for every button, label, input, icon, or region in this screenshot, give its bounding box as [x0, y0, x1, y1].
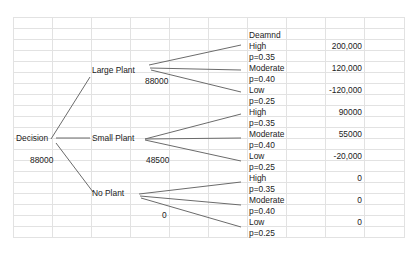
- outcome-payoff: -20,000: [320, 151, 362, 162]
- outcome-prob: p=0.35: [249, 118, 275, 129]
- outcome-line: [141, 198, 241, 227]
- branch-ev-no-plant: 0: [162, 210, 167, 221]
- branch-label-small-plant: Small Plant: [92, 133, 134, 144]
- outcome-line: [140, 196, 241, 205]
- outcome-line: [150, 68, 241, 70]
- outcome-label: High: [249, 107, 266, 118]
- outcome-label: Low: [249, 217, 264, 228]
- outcome-label: High: [249, 173, 266, 184]
- outcome-label: Moderate: [249, 129, 284, 140]
- decision-node-value: 88000: [30, 155, 53, 166]
- outcome-prob: p=0.25: [249, 162, 275, 173]
- outcome-payoff: 120,000: [320, 63, 362, 74]
- outcome-prob: p=0.35: [249, 184, 275, 195]
- outcome-label: Low: [249, 151, 264, 162]
- outcome-label: Moderate: [249, 63, 284, 74]
- outcome-line: [139, 182, 241, 194]
- outcome-payoff: 90000: [320, 107, 362, 118]
- outcome-payoff: 200,000: [320, 41, 362, 52]
- outcome-prob: p=0.40: [249, 140, 275, 151]
- outcome-prob: p=0.40: [249, 206, 275, 217]
- outcome-prob: p=0.40: [249, 74, 275, 85]
- branch-ev-large-plant: 88000: [145, 76, 168, 87]
- outcome-payoff: 0: [320, 195, 362, 206]
- outcome-payoff: 55000: [320, 129, 362, 140]
- outcome-label: Moderate: [249, 195, 284, 206]
- outcome-line: [145, 114, 241, 139]
- branch-line-large-plant: [51, 77, 90, 139]
- outcome-payoff: -120,000: [320, 85, 362, 96]
- branch-label-no-plant: No Plant: [92, 188, 124, 199]
- branch-ev-small-plant: 48500: [146, 155, 169, 166]
- outcome-prob: p=0.25: [249, 228, 275, 239]
- outcome-payoff: 0: [320, 217, 362, 228]
- outcome-payoff: 0: [320, 173, 362, 184]
- outcome-label: High: [249, 41, 266, 52]
- outcome-prob: p=0.25: [249, 96, 275, 107]
- outcome-line: [149, 45, 241, 65]
- demand-header: Deamnd: [249, 30, 281, 41]
- branch-line-no-plant: [56, 143, 93, 192]
- outcome-label: Low: [249, 85, 264, 96]
- outcome-line: [145, 138, 241, 139]
- branch-label-large-plant: Large Plant: [92, 65, 135, 76]
- decision-node-label: Decision: [16, 133, 48, 144]
- outcome-prob: p=0.35: [249, 52, 275, 63]
